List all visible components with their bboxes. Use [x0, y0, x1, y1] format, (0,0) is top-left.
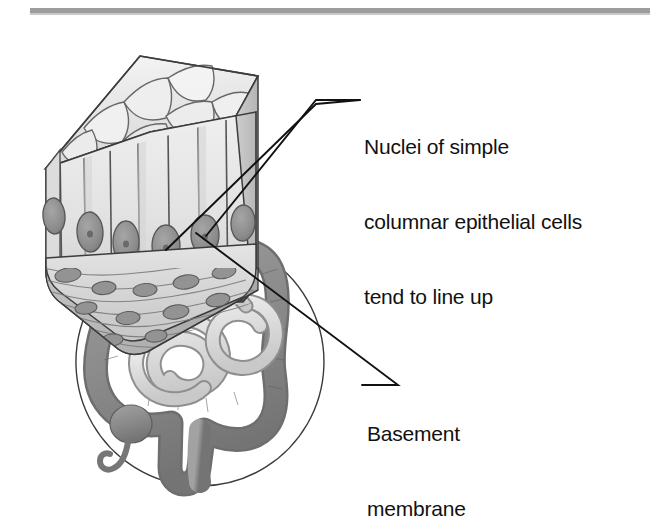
top-divider-rule: [30, 8, 650, 15]
basement-label-line-1: Basement: [367, 421, 466, 446]
nuclei-label-line-1: Nuclei of simple: [364, 134, 582, 159]
nuclei-label-line-3: tend to line up: [364, 284, 582, 309]
basement-membrane-callout-label: Basement membrane: [367, 371, 466, 520]
rectum: [199, 430, 201, 482]
nuclei-callout-label: Nuclei of simple columnar epithelial cel…: [364, 84, 582, 359]
nuclei-label-line-2: columnar epithelial cells: [364, 209, 582, 234]
basement-label-line-2: membrane: [367, 496, 466, 520]
